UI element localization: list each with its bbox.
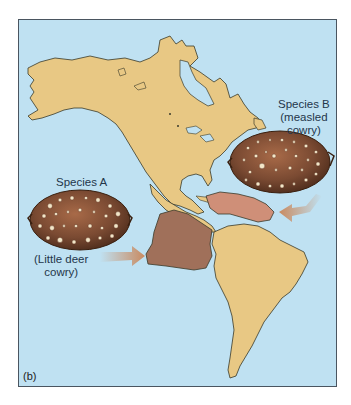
species-a-shell [28, 190, 132, 250]
species-b-common-name-line1: (measled [278, 111, 330, 124]
species-b-title: Species B [278, 98, 330, 111]
panel-label: (b) [23, 370, 36, 382]
species-b-title-block: Species B (measled cowry) [278, 98, 330, 137]
species-a-title: Species A [56, 176, 107, 189]
species-a-common-name-line1: (Little deer [34, 253, 88, 266]
species-a-common-name-line2: cowry) [34, 266, 88, 279]
species-b-migration-arrow [279, 194, 322, 222]
species-b-common-name-line2: cowry) [278, 124, 330, 137]
species-a-common-name: (Little deer cowry) [34, 253, 88, 279]
species-b-shell [228, 131, 334, 193]
americas-map [0, 0, 351, 405]
species-b-range [206, 192, 274, 222]
species-a-migration-arrow [100, 246, 145, 266]
south-america-landmass [212, 224, 308, 378]
